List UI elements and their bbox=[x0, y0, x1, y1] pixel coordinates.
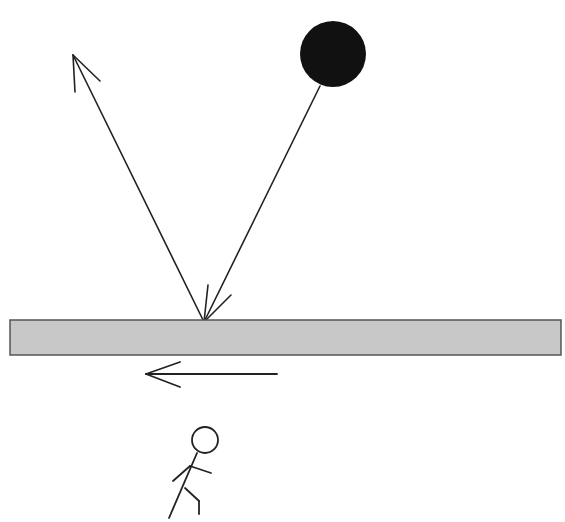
motion-arrow-icon bbox=[146, 362, 277, 387]
stick-figure-head bbox=[192, 427, 218, 453]
incident-trajectory bbox=[204, 86, 320, 322]
physics-diagram bbox=[0, 0, 565, 522]
reflected-trajectory bbox=[73, 55, 204, 322]
moving-surface bbox=[10, 320, 561, 355]
ball bbox=[300, 21, 366, 87]
stick-figure-icon bbox=[169, 427, 218, 518]
reflected-arrowhead-icon bbox=[73, 55, 75, 92]
